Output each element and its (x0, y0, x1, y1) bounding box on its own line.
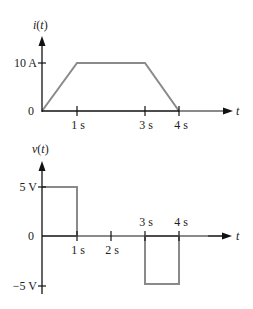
tick-label-1s-v: 1 s (71, 243, 85, 257)
tick-label-4s: 4 s (174, 118, 188, 132)
current-waveform (42, 63, 228, 111)
tick-label-4s-v: 4 s (174, 215, 188, 229)
voltage-y-axis-label: v(t) (32, 142, 49, 156)
current-y-axis-label: i(t) (33, 18, 48, 32)
voltage-plot: v(t) t 5 V 0 −5 V 1 s 2 s 3 s 4 s (13, 142, 240, 294)
tick-label-zero: 0 (28, 104, 34, 118)
current-x-axis-label: t (236, 104, 240, 118)
tick-label-2s-v: 2 s (105, 243, 119, 257)
tick-label-1s: 1 s (71, 118, 85, 132)
tick-label-10A: 10 A (14, 56, 37, 70)
voltage-x-axis-arrow-icon (222, 233, 232, 240)
voltage-x-axis-label: t (236, 229, 240, 243)
tick-label-3s-v: 3 s (139, 215, 153, 229)
waveform-figure: i(t) t 10 A 0 1 s 3 s 4 s v(t) (0, 0, 253, 309)
tick-label-m5V: −5 V (13, 279, 38, 293)
voltage-y-axis-arrow-icon (39, 161, 46, 171)
tick-label-3s: 3 s (139, 118, 153, 132)
current-plot: i(t) t 10 A 0 1 s 3 s 4 s (14, 18, 240, 132)
current-y-axis-arrow-icon (39, 36, 46, 46)
tick-label-5V: 5 V (20, 180, 38, 194)
tick-label-zero-v: 0 (28, 229, 34, 243)
current-x-axis-arrow-icon (223, 108, 233, 115)
